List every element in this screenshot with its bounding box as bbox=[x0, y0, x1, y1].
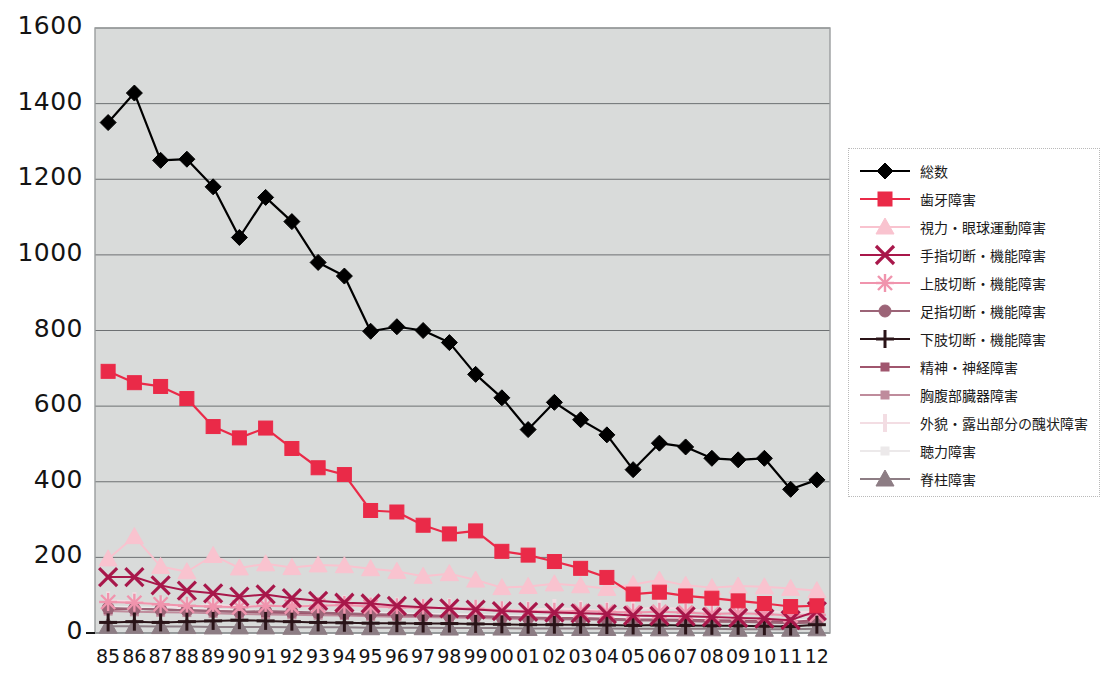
legend-symbol bbox=[858, 186, 912, 212]
legend-item[interactable]: 精神・神経障害 bbox=[849, 353, 1099, 381]
legend-marker-vbar-icon bbox=[858, 410, 912, 436]
legend-marker-diamond-icon bbox=[858, 158, 912, 184]
legend-marker-small-square-icon bbox=[858, 354, 912, 380]
legend-item[interactable]: 歯牙障害 bbox=[849, 185, 1099, 213]
y-tick-label: 400 bbox=[34, 465, 83, 494]
legend-item[interactable]: 胸腹部臓器障害 bbox=[849, 381, 1099, 409]
legend-symbol bbox=[858, 242, 912, 268]
legend-symbol bbox=[858, 354, 912, 380]
line-chart: 02004006008001000120014001600 8586878889… bbox=[0, 0, 1118, 680]
y-tick-label: 1200 bbox=[17, 162, 83, 191]
legend-item[interactable]: 総数 bbox=[849, 157, 1099, 185]
legend-label: 歯牙障害 bbox=[920, 189, 976, 209]
legend-marker-triangle-icon bbox=[858, 214, 912, 240]
legend-symbol bbox=[858, 298, 912, 324]
legend-label: 視力・眼球運動障害 bbox=[920, 217, 1046, 237]
legend-symbol bbox=[858, 158, 912, 184]
x-tick-label: 12 bbox=[797, 645, 837, 667]
y-tick-label: 0 bbox=[67, 616, 83, 645]
legend-marker-small-square-icon bbox=[858, 382, 912, 408]
legend-marker-small-square-icon bbox=[858, 438, 912, 464]
legend-label: 脊柱障害 bbox=[920, 469, 976, 489]
legend-label: 外貌・露出部分の醜状障害 bbox=[920, 413, 1088, 433]
legend-label: 足指切断・機能障害 bbox=[920, 301, 1046, 321]
legend-symbol bbox=[858, 382, 912, 408]
legend-label: 下肢切断・機能障害 bbox=[920, 329, 1046, 349]
legend-marker-triangle-icon bbox=[858, 466, 912, 492]
legend-label: 胸腹部臓器障害 bbox=[920, 385, 1018, 405]
legend-label: 精神・神経障害 bbox=[920, 357, 1018, 377]
legend-item[interactable]: 上肢切断・機能障害 bbox=[849, 269, 1099, 297]
legend-item[interactable]: 外貌・露出部分の醜状障害 bbox=[849, 409, 1099, 437]
legend-symbol bbox=[858, 438, 912, 464]
legend-label: 上肢切断・機能障害 bbox=[920, 273, 1046, 293]
legend-symbol bbox=[858, 326, 912, 352]
legend-symbol bbox=[858, 214, 912, 240]
legend-symbol bbox=[858, 270, 912, 296]
legend-symbol bbox=[858, 410, 912, 436]
legend-item[interactable]: 手指切断・機能障害 bbox=[849, 241, 1099, 269]
y-tick-label: 800 bbox=[34, 314, 83, 343]
y-tick-label: 1600 bbox=[17, 11, 83, 40]
legend-item[interactable]: 聴力障害 bbox=[849, 437, 1099, 465]
legend-marker-asterisk-icon bbox=[858, 270, 912, 296]
legend-marker-x-icon bbox=[858, 242, 912, 268]
legend-item[interactable]: 足指切断・機能障害 bbox=[849, 297, 1099, 325]
y-tick-label: 1000 bbox=[17, 238, 83, 267]
legend-label: 手指切断・機能障害 bbox=[920, 245, 1046, 265]
legend-label: 総数 bbox=[920, 161, 948, 181]
chart-legend: 総数歯牙障害視力・眼球運動障害手指切断・機能障害上肢切断・機能障害足指切断・機能… bbox=[848, 148, 1100, 497]
legend-item[interactable]: 下肢切断・機能障害 bbox=[849, 325, 1099, 353]
legend-marker-circle-icon bbox=[858, 298, 912, 324]
legend-item[interactable]: 視力・眼球運動障害 bbox=[849, 213, 1099, 241]
legend-marker-plus-icon bbox=[858, 326, 912, 352]
y-tick-label: 200 bbox=[34, 540, 83, 569]
legend-label: 聴力障害 bbox=[920, 441, 976, 461]
y-tick-label: 600 bbox=[34, 389, 83, 418]
legend-marker-square-icon bbox=[858, 186, 912, 212]
legend-item[interactable]: 脊柱障害 bbox=[849, 465, 1099, 493]
y-tick-label: 1400 bbox=[17, 87, 83, 116]
legend-symbol bbox=[858, 466, 912, 492]
